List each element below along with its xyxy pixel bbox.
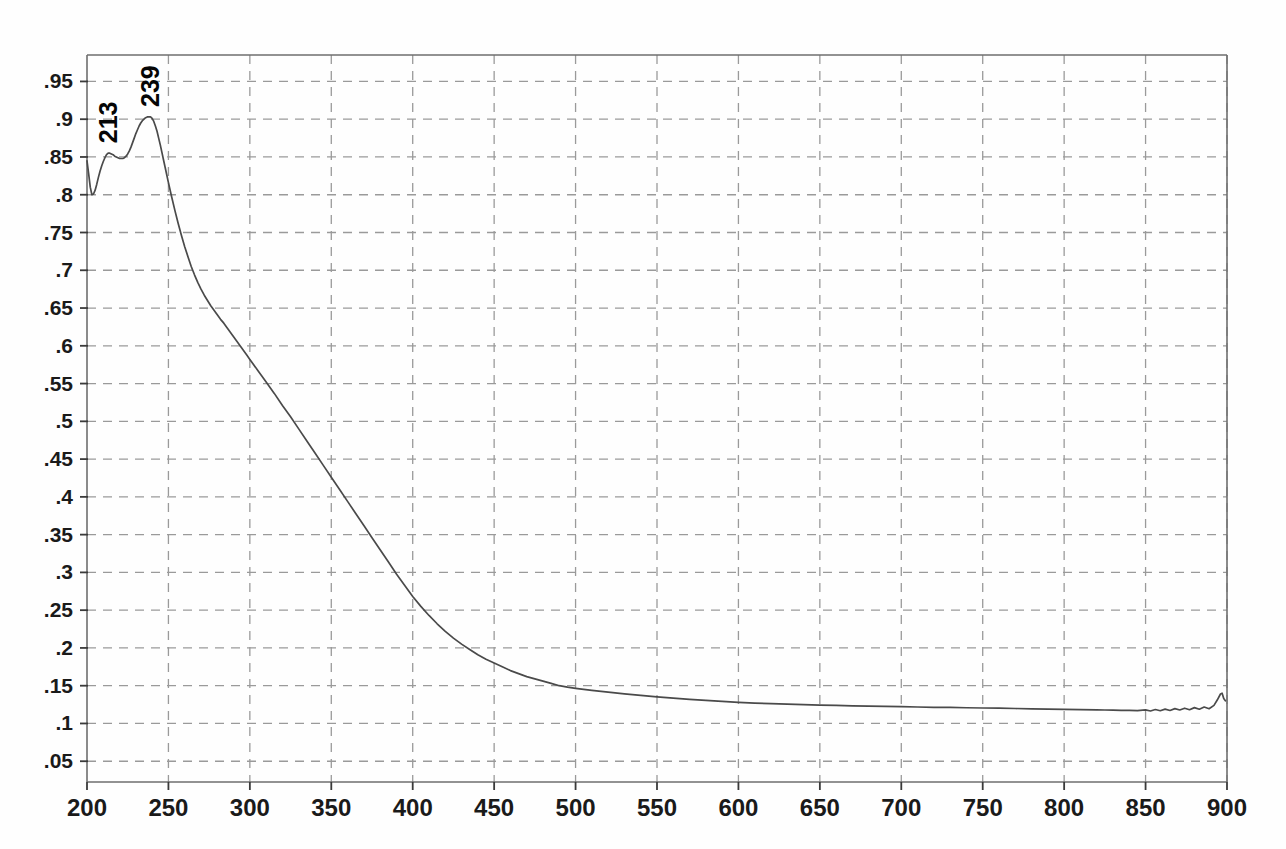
x-tick-label: 500 <box>556 794 596 821</box>
y-tick-label: .9 <box>55 107 73 130</box>
x-tick-label: 200 <box>67 794 107 821</box>
x-tick-label: 800 <box>1044 794 1084 821</box>
y-tick-label: .8 <box>55 183 73 206</box>
x-tick-label: 700 <box>881 794 921 821</box>
y-tick-label: .6 <box>55 334 73 357</box>
y-tick-label: .25 <box>44 598 74 621</box>
spectrum-curve <box>87 117 1225 711</box>
y-tick-label: .95 <box>44 69 74 92</box>
x-axis-tick-labels: 2002503003504004505005506006507007508008… <box>67 794 1247 821</box>
data-series-layer <box>87 117 1225 711</box>
x-tick-label: 350 <box>311 794 351 821</box>
x-tick-label: 550 <box>637 794 677 821</box>
x-tick-label: 650 <box>800 794 840 821</box>
y-tick-label: .55 <box>44 372 74 395</box>
y-tick-label: .2 <box>55 636 73 659</box>
grid-lines <box>87 55 1227 782</box>
x-tick-label: 750 <box>963 794 1003 821</box>
x-tick-label: 600 <box>718 794 758 821</box>
y-tick-label: .3 <box>55 560 73 583</box>
x-tick-label: 900 <box>1207 794 1247 821</box>
axis-ticks <box>80 81 1227 790</box>
y-tick-label: .05 <box>44 749 74 772</box>
y-tick-label: .85 <box>44 145 74 168</box>
peak-label-239: 239 <box>137 65 165 107</box>
y-tick-label: .75 <box>44 221 74 244</box>
peak-label-213: 213 <box>94 101 122 143</box>
y-tick-label: .35 <box>44 523 74 546</box>
x-tick-label: 850 <box>1126 794 1166 821</box>
x-tick-label: 400 <box>393 794 433 821</box>
x-tick-label: 250 <box>148 794 188 821</box>
chart-canvas: .05.1.15.2.25.3.35.4.45.5.55.6.65.7.75.8… <box>0 0 1286 849</box>
peak-annotations: 213239 <box>94 65 164 143</box>
y-tick-label: .65 <box>44 296 74 319</box>
y-tick-label: .1 <box>55 711 73 734</box>
y-tick-label: .15 <box>44 674 74 697</box>
spectrum-chart: .05.1.15.2.25.3.35.4.45.5.55.6.65.7.75.8… <box>0 0 1286 849</box>
y-tick-label: .7 <box>55 258 73 281</box>
y-tick-label: .45 <box>44 447 74 470</box>
y-tick-label: .5 <box>55 409 73 432</box>
x-tick-label: 450 <box>474 794 514 821</box>
plot-frame <box>87 55 1227 782</box>
chart-page: .05.1.15.2.25.3.35.4.45.5.55.6.65.7.75.8… <box>0 0 1286 849</box>
y-tick-label: .4 <box>55 485 73 508</box>
y-axis-tick-labels: .05.1.15.2.25.3.35.4.45.5.55.6.65.7.75.8… <box>44 69 74 772</box>
x-tick-label: 300 <box>230 794 270 821</box>
